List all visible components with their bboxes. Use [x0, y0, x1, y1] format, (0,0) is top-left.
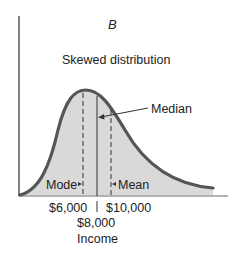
skewed-distribution-chart: B Skewed distribution Median Mode Mean $…	[0, 0, 241, 258]
mode-label: Mode	[46, 178, 77, 192]
tick-label-mode: $6,000	[49, 201, 87, 215]
median-label: Median	[151, 102, 192, 116]
mean-label: Mean	[118, 178, 149, 192]
chart-title: Skewed distribution	[62, 53, 170, 67]
tick-label-mean: $10,000	[106, 201, 151, 215]
x-axis-label: Income	[77, 232, 118, 246]
panel-label: B	[108, 17, 117, 32]
tick-label-median: $8,000	[77, 216, 115, 230]
